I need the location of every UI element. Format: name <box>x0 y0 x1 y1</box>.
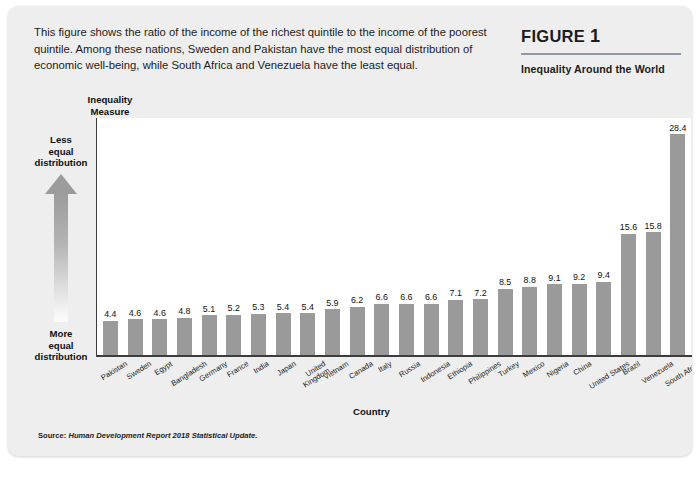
x-tick-label: China <box>572 360 593 378</box>
bar-value-label: 9.4 <box>598 270 610 280</box>
x-tick: Germany <box>197 358 222 406</box>
y-axis-title-line1: Inequality <box>88 94 133 105</box>
x-tick: Vietnam <box>320 358 345 406</box>
bar <box>202 315 217 355</box>
bar <box>572 284 587 355</box>
x-tick: France <box>221 358 246 406</box>
bar-value-label: 6.2 <box>351 295 363 305</box>
bar-column: 5.4 <box>271 118 296 355</box>
bar-column: 6.6 <box>394 118 419 355</box>
bar-value-label: 6.6 <box>400 292 412 302</box>
source-prefix: Source: <box>38 431 66 440</box>
bar-value-label: 9.1 <box>548 273 560 283</box>
bar-column: 7.2 <box>468 118 493 355</box>
source-text: Human Development Report 2018 Statistica… <box>68 431 257 440</box>
bar <box>152 319 167 355</box>
bar <box>350 307 365 355</box>
x-tick: Brazil <box>616 358 641 406</box>
x-tick: India <box>246 358 271 406</box>
bar <box>103 321 118 355</box>
bar-column: 6.6 <box>419 118 444 355</box>
bar <box>448 300 463 355</box>
bar-value-label: 6.6 <box>376 292 388 302</box>
bar-column: 4.8 <box>172 118 197 355</box>
bar-value-label: 5.4 <box>302 302 314 312</box>
source-note: Source: Human Development Report 2018 St… <box>38 431 257 440</box>
x-tick: Egypt <box>147 358 172 406</box>
bar <box>325 309 340 355</box>
x-tick: Russia <box>394 358 419 406</box>
bar-value-label: 7.2 <box>474 288 486 298</box>
bar-value-label: 5.2 <box>228 303 240 313</box>
x-tick: Pakistan <box>98 358 123 406</box>
bar-column: 5.2 <box>221 118 246 355</box>
bar <box>300 313 315 355</box>
x-tick: Bangladesh <box>172 358 197 406</box>
figure-label-number: 1 <box>590 26 600 46</box>
x-tick: Canada <box>345 358 370 406</box>
bar <box>646 232 661 355</box>
x-tick: South Africa <box>665 358 690 406</box>
figure-label-word: FIGURE <box>521 27 585 45</box>
x-tick: Turkey <box>493 358 518 406</box>
x-tick: Italy <box>369 358 394 406</box>
bar-value-label: 4.4 <box>104 309 116 319</box>
bar-column: 9.2 <box>567 118 592 355</box>
x-tick: Philippines <box>468 358 493 406</box>
bar-value-label: 8.5 <box>499 277 511 287</box>
bar-column: 8.5 <box>493 118 518 355</box>
bar <box>276 313 291 355</box>
bar-column: 15.6 <box>616 118 641 355</box>
x-tick: Venezuela <box>641 358 666 406</box>
bar-column: 4.6 <box>147 118 172 355</box>
bar-value-label: 4.8 <box>178 306 190 316</box>
bar <box>621 234 636 355</box>
bar-column: 5.1 <box>197 118 222 355</box>
y-axis-title-line2: Measure <box>91 106 130 117</box>
bar-column: 4.4 <box>98 118 123 355</box>
bar <box>522 287 537 355</box>
bar <box>251 314 266 355</box>
bar-value-label: 5.9 <box>326 298 338 308</box>
x-axis-line <box>96 355 692 357</box>
x-tick: Ethiopia <box>443 358 468 406</box>
x-tick: United States <box>591 358 616 406</box>
x-tick-label: India <box>253 360 271 376</box>
x-tick: Indonesia <box>419 358 444 406</box>
x-tick: Sweden <box>123 358 148 406</box>
bar-value-label: 28.4 <box>669 123 686 133</box>
inequality-arrow-icon <box>45 174 77 322</box>
bar <box>399 304 414 355</box>
x-tick: Nigeria <box>542 358 567 406</box>
figure-header: FIGURE 1 Inequality Around the World <box>521 26 681 75</box>
bar <box>596 282 611 355</box>
bar-value-label: 5.1 <box>203 304 215 314</box>
bar-column: 28.4 <box>665 118 690 355</box>
bar-column: 6.2 <box>345 118 370 355</box>
bar <box>177 318 192 355</box>
figure-label: FIGURE 1 <box>521 26 681 51</box>
bar <box>424 304 439 355</box>
x-axis-tick-labels: PakistanSwedenEgyptBangladeshGermanyFran… <box>98 358 690 406</box>
more-equal-annotation: Moreequaldistribution <box>30 328 92 363</box>
bar-column: 9.1 <box>542 118 567 355</box>
bar-column: 5.9 <box>320 118 345 355</box>
x-tick: UnitedKingdom <box>295 358 320 406</box>
bar <box>374 304 389 355</box>
bar-column: 15.8 <box>641 118 666 355</box>
bar-value-label: 8.8 <box>524 275 536 285</box>
bar-value-label: 6.6 <box>425 292 437 302</box>
x-tick-label: Italy <box>377 360 393 375</box>
bar-column: 7.1 <box>443 118 468 355</box>
figure-card: This figure shows the ratio of the incom… <box>8 6 692 456</box>
bar-column: 4.6 <box>123 118 148 355</box>
bar-column: 8.8 <box>517 118 542 355</box>
bar-column: 6.6 <box>369 118 394 355</box>
arrow-head-icon <box>45 174 77 194</box>
bar-value-label: 5.4 <box>277 302 289 312</box>
bar-column: 9.4 <box>591 118 616 355</box>
less-equal-annotation: Lessequaldistribution <box>30 134 92 169</box>
bar-value-label: 7.1 <box>450 288 462 298</box>
bar-value-label: 15.8 <box>644 221 661 231</box>
figure-caption: This figure shows the ratio of the incom… <box>34 24 504 74</box>
